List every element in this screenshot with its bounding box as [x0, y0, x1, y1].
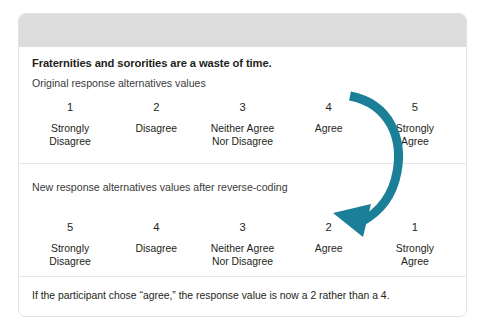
scale-value: 1	[372, 220, 458, 235]
reverse-coded-values-panel: New response alternatives values after r…	[19, 164, 466, 277]
scale-value: 1	[27, 100, 113, 115]
scale-value: 2	[286, 220, 372, 235]
scale-column: 3 Neither Agree Nor Disagree	[199, 100, 285, 148]
caption-panel: If the participant chose “agree,” the re…	[19, 277, 466, 317]
scale-value: 4	[286, 100, 372, 115]
scale-label: Disagree	[113, 242, 199, 255]
scale-label: Neither Agree Nor Disagree	[199, 242, 285, 268]
scale-column: 1 Strongly Agree	[372, 220, 458, 268]
scale-label: Strongly Disagree	[27, 122, 113, 148]
scale-value: 5	[27, 220, 113, 235]
scale-column: 4 Agree	[286, 100, 372, 148]
original-values-heading: Original response alternatives values	[32, 77, 206, 89]
scale-column: 5 Strongly Disagree	[27, 220, 113, 268]
scale-column: 4 Disagree	[113, 220, 199, 268]
scale-label: Agree	[286, 242, 372, 255]
scale-value: 2	[113, 100, 199, 115]
scale-column: 3 Neither Agree Nor Disagree	[199, 220, 285, 268]
scale-label: Neither Agree Nor Disagree	[199, 122, 285, 148]
scale-column: 1 Strongly Disagree	[27, 100, 113, 148]
scale-column: 2 Agree	[286, 220, 372, 268]
reverse-coded-scale-row: 5 Strongly Disagree 4 Disagree 3 Neither…	[27, 220, 458, 268]
original-values-panel: Fraternities and sororities are a waste …	[19, 47, 466, 164]
original-scale-row: 1 Strongly Disagree 2 Disagree 3 Neither…	[27, 100, 458, 148]
figure-caption: If the participant chose “agree,” the re…	[32, 290, 390, 301]
scale-column: 5 Strongly Agree	[372, 100, 458, 148]
reverse-coded-heading: New response alternatives values after r…	[32, 181, 288, 193]
scale-column: 2 Disagree	[113, 100, 199, 148]
scale-value: 3	[199, 100, 285, 115]
reverse-coding-figure: Fraternities and sororities are a waste …	[18, 13, 467, 317]
scale-label: Strongly Agree	[372, 122, 458, 148]
scale-value: 4	[113, 220, 199, 235]
scale-label: Strongly Agree	[372, 242, 458, 268]
scale-label: Disagree	[113, 122, 199, 135]
scale-label: Strongly Disagree	[27, 242, 113, 268]
scale-value: 3	[199, 220, 285, 235]
header-band	[19, 14, 466, 47]
survey-statement: Fraternities and sororities are a waste …	[32, 57, 272, 69]
scale-value: 5	[372, 100, 458, 115]
scale-label: Agree	[286, 122, 372, 135]
